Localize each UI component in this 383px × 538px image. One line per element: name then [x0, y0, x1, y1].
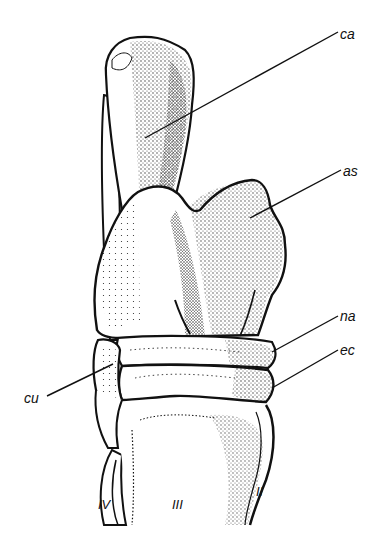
label-ectocuneiform: ec	[340, 343, 355, 357]
label-calcaneus: ca	[340, 27, 355, 41]
label-metatarsal-ii: II	[256, 485, 263, 498]
label-astragalus: as	[343, 164, 358, 178]
ectocuneiform	[119, 365, 273, 402]
navicular	[117, 336, 276, 368]
tarsus-illustration: ca as na ec cu IV III II	[0, 0, 383, 538]
label-metatarsal-iv: IV	[98, 498, 110, 511]
label-navicular: na	[340, 309, 356, 323]
cuboid	[94, 339, 122, 448]
label-cuboid: cu	[24, 391, 39, 405]
metatarsal-iii	[118, 408, 266, 525]
bone-drawing	[0, 0, 383, 538]
label-metatarsal-iii: III	[172, 498, 183, 511]
